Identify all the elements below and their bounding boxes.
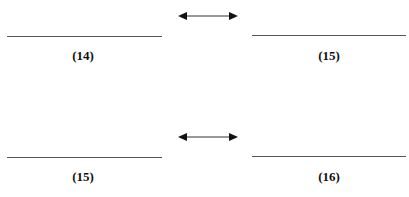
double-arrow-icon — [178, 131, 238, 143]
label-right-2: (16) — [299, 169, 359, 185]
blank-line-left-1 — [7, 36, 162, 37]
blank-line-right-2 — [252, 156, 406, 157]
label-right-1: (15) — [299, 48, 359, 64]
blank-line-left-2 — [7, 157, 162, 158]
label-left-1: (14) — [53, 48, 113, 64]
label-left-2: (15) — [53, 169, 113, 185]
blank-line-right-1 — [252, 35, 406, 36]
double-arrow-icon — [178, 10, 238, 22]
